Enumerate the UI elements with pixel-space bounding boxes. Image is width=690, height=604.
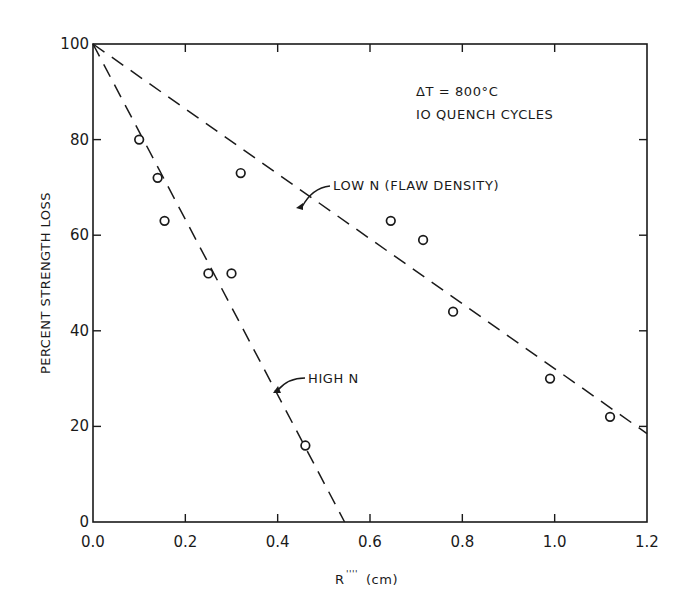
- x-tick-label: 0.8: [450, 533, 474, 551]
- x-tick-label: 0.0: [81, 533, 105, 551]
- y-tick-label: 80: [70, 131, 89, 149]
- data-point-marker: [160, 217, 169, 226]
- y-axis-title: PERCENT STRENGTH LOSS: [38, 192, 53, 374]
- y-tick-label: 40: [70, 322, 89, 340]
- data-point-marker: [606, 413, 615, 422]
- label-low-n: LOW N (FLAW DENSITY): [333, 178, 499, 193]
- data-point-marker: [236, 169, 245, 178]
- y-axis-ticks: 020406080100: [60, 35, 647, 531]
- chart-figure: 0.00.20.40.60.81.01.2 020406080100 ΔT = …: [0, 0, 690, 604]
- arrow-high-n-icon: [278, 378, 305, 390]
- data-point-marker: [546, 374, 555, 383]
- svg-text:(cm): (cm): [366, 572, 398, 587]
- annotation-delta-t: ΔT = 800°C: [416, 84, 498, 99]
- y-tick-label: 60: [70, 226, 89, 244]
- svg-text:R: R: [335, 572, 345, 587]
- y-tick-label: 20: [70, 417, 89, 435]
- plot-frame: [93, 44, 647, 522]
- annotation-quench-cycles: IO QUENCH CYCLES: [416, 107, 553, 122]
- arrowhead-low-n-icon: [296, 203, 303, 210]
- data-point-marker: [386, 217, 395, 226]
- x-tick-label: 1.0: [543, 533, 567, 551]
- fit-lines: [93, 44, 647, 522]
- svg-text:'''': '''': [346, 569, 358, 579]
- data-point-marker: [204, 269, 213, 278]
- data-point-marker: [153, 174, 162, 183]
- x-axis-title: R '''' (cm): [335, 569, 398, 587]
- label-high-n: HIGH N: [308, 371, 359, 386]
- y-tick-label: 100: [60, 35, 89, 53]
- data-point-marker: [419, 236, 428, 245]
- data-point-marker: [227, 269, 236, 278]
- y-tick-label: 0: [79, 513, 89, 531]
- plot-border: [93, 44, 647, 522]
- fit-line-low-n-flaw-density: [93, 44, 647, 434]
- data-point-marker: [135, 135, 144, 144]
- x-tick-label: 1.2: [635, 533, 659, 551]
- data-point-marker: [449, 307, 458, 316]
- x-tick-label: 0.2: [173, 533, 197, 551]
- x-axis-ticks: 0.00.20.40.60.81.01.2: [81, 44, 659, 551]
- data-point-marker: [301, 441, 310, 450]
- arrow-low-n-icon: [302, 186, 330, 207]
- x-tick-label: 0.6: [358, 533, 382, 551]
- x-tick-label: 0.4: [266, 533, 290, 551]
